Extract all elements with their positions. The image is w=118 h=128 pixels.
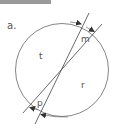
region-label-t: t bbox=[39, 51, 43, 61]
secant-line-2 bbox=[23, 24, 102, 113]
region-label-r: r bbox=[81, 80, 85, 90]
circle bbox=[16, 24, 109, 117]
circle-diagram: t m r p bbox=[0, 0, 118, 128]
arc-arrow-top bbox=[70, 22, 81, 24]
arc-label-m: m bbox=[81, 34, 90, 44]
arc-label-p: p bbox=[37, 98, 43, 108]
